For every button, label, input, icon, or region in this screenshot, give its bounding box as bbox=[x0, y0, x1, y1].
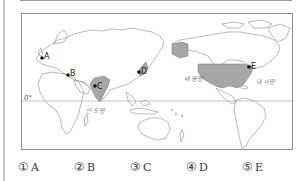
highlight-usa bbox=[198, 64, 252, 88]
marker-e-label: E bbox=[251, 63, 256, 71]
marker-b-label: B bbox=[70, 70, 76, 78]
option-number: ② bbox=[74, 160, 85, 174]
option-label: B bbox=[87, 161, 95, 174]
marker-d-label: D bbox=[141, 68, 147, 76]
world-map: A B C D E 0° 태평양 대서양 인도양 bbox=[21, 13, 293, 150]
marker-c-label: C bbox=[97, 83, 103, 91]
equator-label: 0° bbox=[24, 94, 32, 102]
answer-options: ①A ②B ③C ④D ⑤E bbox=[18, 160, 308, 180]
option-label: E bbox=[255, 161, 263, 174]
left-margin-rule bbox=[3, 0, 5, 181]
answer-option-5[interactable]: ⑤E bbox=[242, 160, 263, 174]
option-label: C bbox=[143, 161, 151, 174]
answer-option-1[interactable]: ①A bbox=[18, 160, 39, 174]
option-label: A bbox=[31, 161, 39, 174]
option-number: ③ bbox=[130, 160, 141, 174]
answer-option-4[interactable]: ④D bbox=[186, 160, 208, 174]
pacific-ocean-label: 태평양 bbox=[184, 74, 204, 83]
indian-ocean-label: 인도양 bbox=[86, 106, 106, 115]
option-number: ⑤ bbox=[242, 160, 253, 174]
top-rule bbox=[20, 0, 292, 1]
option-label: D bbox=[199, 161, 208, 174]
option-number: ④ bbox=[186, 160, 197, 174]
world-map-drawing bbox=[22, 14, 293, 150]
answer-option-3[interactable]: ③C bbox=[130, 160, 151, 174]
option-number: ① bbox=[18, 160, 29, 174]
atlantic-ocean-label: 대서양 bbox=[256, 77, 276, 86]
highlight-alaska bbox=[172, 42, 188, 58]
answer-option-2[interactable]: ②B bbox=[74, 160, 95, 174]
marker-a-label: A bbox=[44, 53, 49, 61]
